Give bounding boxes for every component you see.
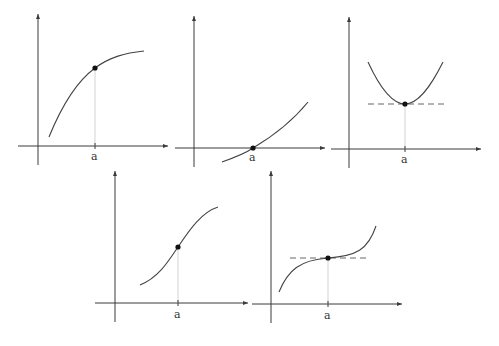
x-label-a: a	[249, 151, 256, 164]
curve	[49, 51, 144, 137]
panel-increasing-concave: a	[18, 14, 168, 165]
figure-canvas: a a a a a	[0, 0, 499, 346]
panel-local-minimum: a	[331, 17, 481, 168]
point-a	[250, 145, 255, 150]
x-label-a: a	[91, 150, 98, 163]
point-a	[402, 101, 407, 106]
point-a	[325, 255, 330, 260]
panel-zero-crossing: a	[175, 16, 325, 167]
point-a	[175, 244, 180, 249]
x-label-a: a	[174, 308, 181, 321]
curve	[368, 62, 443, 104]
point-a	[92, 65, 97, 70]
panel-inflection-increasing: a	[95, 171, 248, 322]
x-label-a: a	[324, 309, 331, 322]
x-label-a: a	[401, 153, 408, 166]
panel-stationary-inflection: a	[252, 171, 402, 323]
curve	[222, 102, 308, 162]
